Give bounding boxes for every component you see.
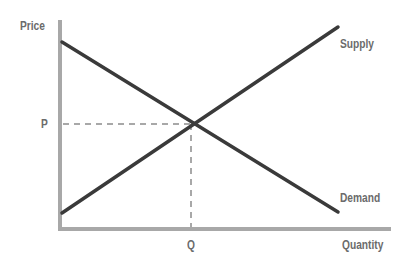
supply-label: Supply xyxy=(340,37,374,51)
quantity-label: Q xyxy=(187,238,195,252)
price-label: P xyxy=(41,117,48,131)
x-axis-label: Quantity xyxy=(342,238,383,252)
demand-label: Demand xyxy=(340,191,380,205)
y-axis-label: Price xyxy=(20,19,45,33)
